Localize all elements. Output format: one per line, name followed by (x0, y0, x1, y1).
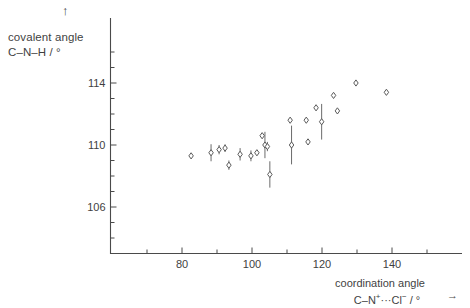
axis-tick-labels: 80100120140106110114 (87, 77, 401, 270)
x-axis-label-mid: ···Cl (381, 294, 402, 306)
svg-text:114: 114 (88, 77, 106, 89)
svg-text:106: 106 (87, 201, 105, 213)
marker-open-diamond (304, 117, 308, 123)
x-axis-label-pre: C–N (354, 294, 376, 306)
marker-open-diamond (288, 117, 292, 123)
data-point (304, 117, 308, 123)
x-axis-label-line2: C–N+···Cl− / ° (300, 290, 460, 307)
figure-canvas: ↑ covalent angle C–N–H / ° 8010012014010… (0, 0, 470, 308)
marker-open-diamond (209, 150, 213, 156)
marker-open-diamond (189, 153, 193, 159)
data-point (354, 80, 358, 86)
marker-open-diamond (354, 80, 358, 86)
x-axis-label-post: / ° (407, 294, 421, 306)
marker-open-diamond (335, 108, 339, 114)
data-point (319, 104, 323, 140)
data-point (209, 144, 213, 161)
marker-open-diamond (260, 133, 264, 139)
marker-open-diamond (238, 151, 242, 157)
data-point (335, 108, 339, 114)
data-point (238, 148, 242, 160)
data-point (288, 117, 292, 123)
marker-open-diamond (306, 139, 310, 145)
x-axis-label-line1: coordination angle (300, 276, 460, 290)
data-point (189, 153, 193, 159)
marker-open-diamond (268, 171, 272, 177)
marker-open-diamond (227, 162, 231, 168)
data-point (289, 126, 293, 165)
marker-open-diamond (384, 89, 388, 95)
data-point (223, 144, 227, 152)
svg-text:100: 100 (243, 258, 261, 270)
plot-axes (111, 18, 463, 254)
marker-open-diamond (314, 105, 318, 111)
marker-open-diamond (289, 142, 293, 148)
data-point (255, 150, 259, 156)
data-point (306, 139, 310, 145)
data-series (189, 80, 389, 188)
data-point (314, 105, 318, 111)
x-axis-label: coordination angle C–N+···Cl− / ° (300, 276, 460, 307)
data-point (249, 150, 253, 161)
svg-text:110: 110 (88, 139, 106, 151)
data-point (384, 89, 388, 95)
marker-open-diamond (255, 150, 259, 156)
data-point (260, 133, 264, 139)
marker-open-diamond (331, 92, 335, 98)
svg-text:120: 120 (313, 258, 331, 270)
marker-open-diamond (217, 147, 221, 153)
marker-open-diamond (223, 145, 227, 151)
axis-ticks (111, 52, 428, 254)
data-point (217, 145, 221, 154)
marker-open-diamond (249, 153, 253, 159)
x-axis-arrow-icon: → (447, 290, 458, 301)
marker-open-diamond (319, 119, 323, 125)
data-point (268, 161, 272, 187)
scatter-plot: 80100120140106110114 (0, 0, 470, 308)
svg-text:140: 140 (383, 258, 401, 270)
data-point (227, 161, 231, 170)
svg-text:80: 80 (176, 258, 188, 270)
data-point (331, 92, 335, 98)
